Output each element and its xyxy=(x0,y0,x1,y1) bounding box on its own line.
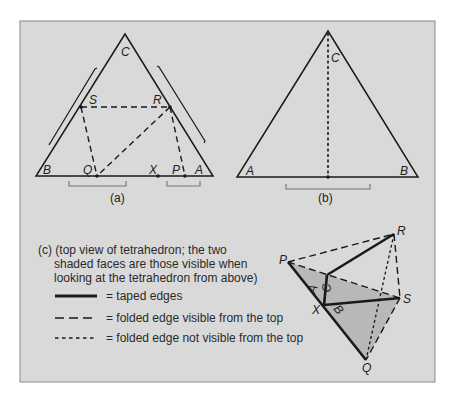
caption-c-line2: shaded faces are those visible when xyxy=(54,257,247,271)
label-a: A xyxy=(245,164,254,178)
label-x: X xyxy=(148,163,158,177)
caption-a: (a) xyxy=(110,191,125,205)
label-s: S xyxy=(89,93,97,107)
label-q: Q xyxy=(362,361,371,375)
label-c-corner: C xyxy=(319,283,334,293)
label-q: Q xyxy=(83,163,92,177)
point-r xyxy=(168,105,172,109)
point-midpoint xyxy=(326,175,330,179)
legend-dotted-label: = folded edge not visible from the top xyxy=(106,331,303,345)
label-r: R xyxy=(397,224,406,238)
point-q xyxy=(95,174,99,178)
legend-dashed-label: = folded edge visible from the top xyxy=(106,311,283,325)
label-c: C xyxy=(121,45,130,59)
label-a: A xyxy=(194,163,203,177)
label-s: S xyxy=(403,292,411,306)
label-r: R xyxy=(153,93,162,107)
label-b: B xyxy=(43,163,51,177)
label-p: P xyxy=(172,163,180,177)
label-p: P xyxy=(279,253,287,267)
tetrahedron-folding-figure: C S R B Q X P A (a) C A B (b) (c) (top v… xyxy=(0,0,453,401)
caption-c-line1: (c) (top view of tetrahedron; the two xyxy=(38,243,227,257)
label-c: C xyxy=(331,51,340,65)
label-b: B xyxy=(400,164,408,178)
label-x: X xyxy=(311,303,321,317)
caption-c-line3: looking at the tetrahedron from above) xyxy=(54,271,257,285)
point-p xyxy=(183,174,187,178)
caption-b: (b) xyxy=(318,191,333,205)
legend-solid-label: = taped edges xyxy=(106,289,182,303)
point-s xyxy=(79,105,83,109)
